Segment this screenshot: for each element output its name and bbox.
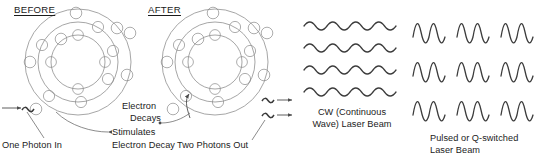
outgoing-photon-wave-icon xyxy=(262,98,274,102)
stimulates-label: Stimulates xyxy=(112,127,155,138)
two-photons-out-leader xyxy=(252,120,265,140)
pulsed-laser-label-line2: Laser Beam xyxy=(430,145,480,156)
electron xyxy=(124,27,136,39)
electron xyxy=(248,22,260,34)
pulse-burst xyxy=(457,102,489,121)
electron xyxy=(239,73,250,84)
electron xyxy=(100,57,111,68)
one-photon-in-leader xyxy=(27,112,44,138)
cw-laser-label-line1: CW (Continuous xyxy=(296,107,408,118)
electron xyxy=(210,30,221,41)
cw-wave-row xyxy=(304,22,396,30)
cw-wave-chart xyxy=(304,22,396,96)
electron xyxy=(24,56,36,68)
pulse-burst xyxy=(457,24,489,43)
electron xyxy=(180,90,191,101)
electron xyxy=(167,103,179,115)
before-label: BEFORE xyxy=(14,4,55,15)
electron xyxy=(261,27,273,39)
electron xyxy=(258,69,270,81)
electron xyxy=(173,39,184,50)
electron xyxy=(70,7,82,19)
pulse-burst xyxy=(501,63,533,82)
cw-wave-row xyxy=(304,88,396,96)
incoming-photon-group xyxy=(2,107,34,111)
after-nucleus xyxy=(201,48,229,76)
after-atom xyxy=(161,7,273,118)
electron xyxy=(183,57,194,68)
electron xyxy=(55,33,67,45)
pulse-burst xyxy=(413,24,445,43)
electron xyxy=(75,96,86,107)
pulsed-laser-label-line1: Pulsed or Q-switched xyxy=(430,133,518,144)
before-atom xyxy=(24,7,136,115)
electron xyxy=(210,84,221,95)
electron xyxy=(46,57,57,68)
electron xyxy=(111,22,123,34)
outgoing-photon-wave-icon xyxy=(262,113,274,117)
cw-wave-row xyxy=(304,44,396,52)
electron xyxy=(73,84,84,95)
electron xyxy=(73,30,84,41)
decays-label: Decays xyxy=(130,113,161,124)
after-label: AFTER xyxy=(148,4,181,15)
electron xyxy=(229,21,240,32)
electron xyxy=(43,90,54,101)
electron xyxy=(192,33,204,45)
cw-wave-row xyxy=(304,66,396,74)
pulse-burst xyxy=(413,63,445,82)
electron xyxy=(102,73,113,84)
cw-laser-label-line2: Wave) Laser Beam xyxy=(296,119,408,130)
electron xyxy=(237,57,248,68)
electron xyxy=(36,39,47,50)
pulse-burst xyxy=(501,24,533,43)
pulse-burst xyxy=(501,102,533,121)
pulse-burst xyxy=(413,102,445,121)
electron xyxy=(244,45,255,56)
laser-diagram-figure: #6a6a6a #d8d8d8 xyxy=(0,0,548,162)
electron xyxy=(107,45,118,56)
electron xyxy=(92,21,103,32)
pulse-burst xyxy=(457,63,489,82)
two-photons-out-label: Two Photons Out xyxy=(177,140,248,151)
before-nucleus xyxy=(64,48,92,76)
pulsed-wave-chart xyxy=(413,24,533,121)
electron xyxy=(30,103,42,115)
electron xyxy=(212,96,223,107)
electron xyxy=(121,69,133,81)
electron xyxy=(207,7,219,19)
outgoing-photon-group xyxy=(262,98,292,117)
electron-label: Electron xyxy=(122,101,156,112)
one-photon-in-label: One Photon In xyxy=(2,140,62,151)
electron xyxy=(161,56,173,68)
electron-decay-label: Electron Decay xyxy=(112,140,175,151)
